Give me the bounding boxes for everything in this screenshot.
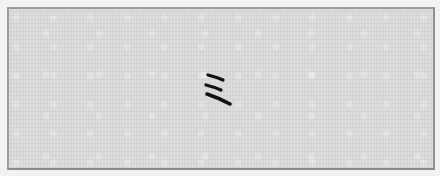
drawing-canvas: ミ <box>7 7 435 170</box>
glyph-stroke-3 <box>207 94 230 104</box>
glyph-stroke-1 <box>208 75 223 80</box>
glyph-stroke-2 <box>206 85 221 90</box>
handwritten-glyph-mi-icon <box>9 9 433 168</box>
